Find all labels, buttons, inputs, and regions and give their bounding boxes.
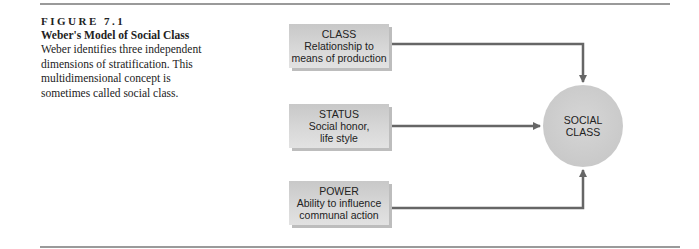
status-heading: STATUS: [289, 108, 389, 120]
status-line1: Social honor,: [289, 120, 389, 132]
circle-line2: CLASS: [566, 126, 600, 138]
status-line2: life style: [289, 132, 389, 144]
power-line1: Ability to influence: [289, 197, 389, 209]
circle-line1: SOCIAL: [564, 114, 603, 126]
social-class-circle: SOCIAL CLASS: [543, 85, 623, 167]
class-line1: Relationship to: [289, 40, 389, 52]
class-line2: means of production: [289, 52, 389, 64]
class-box: CLASS Relationship to means of productio…: [289, 24, 389, 68]
power-heading: POWER: [289, 185, 389, 197]
power-box: POWER Ability to influence communal acti…: [289, 181, 389, 225]
status-box: STATUS Social honor, life style: [289, 104, 389, 148]
power-line2: communal action: [289, 209, 389, 221]
class-heading: CLASS: [289, 28, 389, 40]
